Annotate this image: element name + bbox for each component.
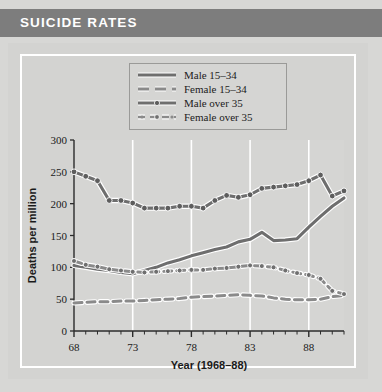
series-marker [118,198,124,204]
series-marker [130,269,135,274]
series-marker [306,272,311,277]
legend-swatch-dashed-line-icon [137,83,177,95]
legend-swatch-solid-marker-line-icon [137,97,177,109]
y-axis-title: Deaths per million [26,188,38,284]
series-marker [201,267,206,272]
legend-label: Female over 35 [184,111,252,124]
series-marker [341,188,347,194]
series-marker [107,267,112,272]
series-marker [236,264,241,269]
series-marker [259,185,265,191]
series-marker [224,192,230,198]
y-tick-label: 100 [51,261,68,273]
series-marker [294,182,300,188]
series-marker [72,258,77,263]
legend-label: Male over 35 [184,97,243,110]
series-marker [247,192,253,198]
series-marker [318,276,323,281]
series-marker [282,183,288,189]
series-marker [212,198,218,204]
legend-label: Female 15–34 [184,83,247,96]
series-marker [118,268,123,273]
series-marker [212,266,217,271]
page-title: SUICIDE RATES [20,15,138,30]
series-marker [142,270,147,275]
series-marker [235,194,241,200]
series-marker [95,178,101,184]
legend-item-female-15-34: Female 15–34 [137,82,279,96]
series-marker [165,269,170,274]
line-chart: 0501001502002503006873788388Year (1968–8… [22,132,352,377]
series-marker [189,267,194,272]
series-marker [188,203,194,209]
series-marker [224,265,229,270]
chart-page: SUICIDE RATES Male 15–34 Female 15–34 [0,0,382,392]
x-tick-label: 68 [69,341,81,353]
series-marker [154,269,159,274]
x-tick-label: 73 [127,341,138,353]
series-marker [271,184,277,190]
y-tick-label: 50 [56,293,68,305]
x-axis-title: Year (1968–88) [171,359,248,371]
series-marker [306,178,312,184]
legend-swatch-solid-line-icon [137,69,177,81]
series-marker [153,205,159,211]
series-marker [248,263,253,268]
series-marker [95,264,100,269]
x-tick-label: 88 [303,341,315,353]
x-tick-label: 78 [186,341,198,353]
series-marker [200,205,206,211]
x-tick-label: 83 [245,341,257,353]
series-marker [177,203,183,209]
y-tick-label: 200 [51,198,68,210]
series-marker [142,205,148,211]
series-marker [106,198,112,204]
y-tick-label: 150 [51,230,68,242]
series-marker [259,264,264,269]
series-marker [165,205,171,211]
series-marker [130,200,136,206]
y-tick-label: 300 [51,134,68,146]
series-marker [329,193,335,199]
y-tick-label: 250 [51,166,68,178]
series-marker [83,262,88,267]
series-marker [318,172,324,178]
legend-item-female-over-35: Female over 35 [137,110,279,124]
series-marker [177,268,182,273]
y-tick-label: 0 [62,325,68,337]
legend-item-male-over-35: Male over 35 [137,96,279,110]
series-marker [71,169,77,175]
series-marker [271,265,276,270]
series-marker [83,173,89,179]
legend-label: Male 15–34 [184,69,237,82]
legend-item-male-15-34: Male 15–34 [137,68,279,82]
title-bar: SUICIDE RATES [0,9,382,37]
chart-plot-area: 0501001502002503006873788388Year (1968–8… [22,132,352,377]
series-marker [330,288,335,293]
legend-swatch-dashed-marker-line-icon [137,111,177,123]
series-marker [283,268,288,273]
series-marker [342,292,347,297]
series-marker [295,271,300,276]
chart-legend: Male 15–34 Female 15–34 Male over 35 [129,63,287,130]
